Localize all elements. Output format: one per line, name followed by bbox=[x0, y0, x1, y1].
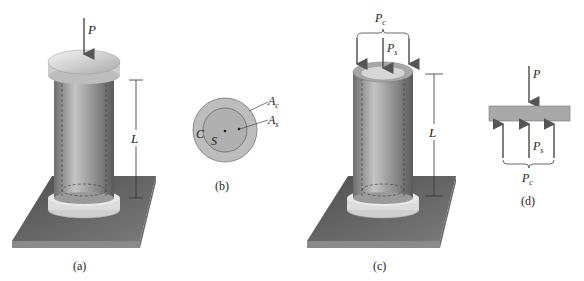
load-label: P bbox=[87, 22, 96, 37]
cylinder bbox=[54, 80, 114, 198]
area-solid-label: As bbox=[267, 113, 278, 129]
solid-load-label: Ps bbox=[386, 41, 397, 57]
free-body-plate bbox=[489, 106, 570, 121]
outer-label: C bbox=[196, 127, 205, 141]
panel-a: P L (a) bbox=[12, 18, 156, 273]
tube-load-brace bbox=[357, 29, 409, 38]
inner-label: S bbox=[211, 134, 217, 148]
solid-top bbox=[361, 66, 405, 80]
area-tube-label: Ac bbox=[267, 94, 279, 110]
caption-d: (d) bbox=[521, 194, 535, 208]
load-label: P bbox=[532, 67, 541, 81]
solid-reaction-label: Ps bbox=[532, 139, 543, 155]
caption-b: (b) bbox=[215, 179, 229, 193]
caption-a: (a) bbox=[73, 259, 86, 273]
composite-column-figure: P L (a) C S Ac As (b) P bbox=[0, 0, 584, 281]
tube-load-label: Pc bbox=[374, 11, 386, 27]
length-label: L bbox=[428, 125, 436, 140]
panel-c: Pc Ps L (c) bbox=[307, 11, 456, 273]
panel-b: C S Ac As (b) bbox=[193, 94, 279, 193]
caption-c: (c) bbox=[373, 259, 386, 273]
tube-reaction-label: Pc bbox=[521, 171, 533, 187]
panel-d: P Ps Pc (d) bbox=[489, 66, 570, 208]
tube-reaction-brace bbox=[503, 160, 554, 168]
length-label: L bbox=[130, 131, 138, 146]
